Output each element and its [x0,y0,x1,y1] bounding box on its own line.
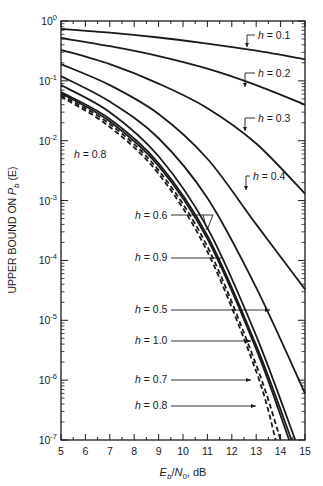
y-tick-label: 10-2 [39,133,57,147]
annotation-0-8: h = 0.8 [74,148,107,160]
annotation-0-1: h = 0.1 [245,29,291,47]
x-tick-label: 6 [82,445,88,457]
annotation-0-9: h = 0.9 [135,251,223,268]
svg-text:h = 0.9: h = 0.9 [135,251,168,263]
svg-text:h = 0.6: h = 0.6 [135,209,168,221]
x-tick-label: 14 [275,445,287,457]
y-tick-label: 10-1 [39,73,57,87]
y-tick-label: 100 [41,13,57,27]
svg-text:h = 0.1: h = 0.1 [258,29,291,41]
y-axis-label: UPPER BOUND ON Pb (E) [6,167,21,294]
svg-text:h = 0.8: h = 0.8 [135,399,168,411]
y-tick-label: 10-5 [39,312,57,326]
x-tick-label: 8 [131,445,137,457]
x-tick-label: 5 [58,445,64,457]
y-tick-label: 10-3 [39,193,57,207]
svg-text:h = 0.3: h = 0.3 [258,112,291,124]
y-tick-label: 10-4 [39,252,57,266]
curves [61,29,305,440]
svg-text:h = 0.8: h = 0.8 [74,148,107,160]
annotation-0-5: h = 0.5 [135,303,270,315]
y-tick-labels: 10010-110-210-310-410-510-610-7 [39,13,57,446]
x-tick-label: 7 [107,445,113,457]
svg-text:h = 1.0: h = 1.0 [135,334,168,346]
curve-1-0 [61,93,289,440]
x-tick-label: 9 [156,445,162,457]
x-tick-labels: 56789101112131415 [58,445,311,457]
y-tick-label: 10-6 [39,372,57,386]
annotation-0-8: h = 0.8 [135,399,256,411]
curve-0-6 [61,85,295,440]
x-tick-label: 11 [202,445,213,457]
annotation-0-2: h = 0.2 [243,67,291,87]
curve-0-7 [61,95,281,440]
svg-text:h = 0.2: h = 0.2 [258,67,291,79]
annotation-0-7: h = 0.7 [135,373,251,385]
x-tick-label: 15 [299,445,311,457]
svg-text:h = 0.4: h = 0.4 [253,170,286,182]
x-tick-label: 13 [250,445,262,457]
svg-text:h = 0.5: h = 0.5 [135,303,168,315]
x-axis-label: Eb/N0, dB [160,466,207,481]
annotation-1-0: h = 1.0 [135,334,251,346]
error-bound-chart: 10010-110-210-310-410-510-610-7 56789101… [0,0,323,486]
x-tick-label: 10 [177,445,189,457]
x-tick-label: 12 [226,445,238,457]
y-tick-label: 10-7 [39,432,57,446]
svg-text:h = 0.7: h = 0.7 [135,373,168,385]
annotation-0-3: h = 0.3 [243,112,291,131]
annotation-0-4: h = 0.4 [244,170,286,190]
